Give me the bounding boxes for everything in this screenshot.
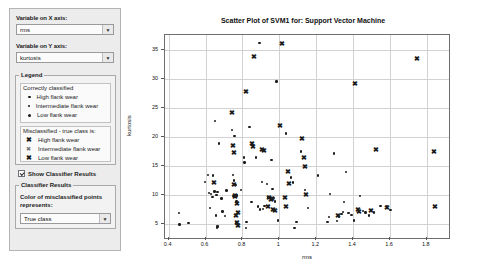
y-gridline bbox=[165, 50, 449, 51]
x-axis-label: rms bbox=[164, 254, 450, 260]
x-marker-icon: ✖ bbox=[26, 136, 32, 144]
scatter-point-misclassified: ✖ bbox=[384, 203, 390, 210]
x-axis-variable-select[interactable]: rms ▼ bbox=[16, 24, 114, 35]
x-tick-label: 1 bbox=[277, 241, 280, 247]
y-axis-label: kurtosis bbox=[126, 115, 132, 136]
scatter-point-correct bbox=[258, 42, 260, 44]
scatter-point-misclassified: ✖ bbox=[250, 142, 256, 149]
scatter-point-correct bbox=[295, 221, 297, 223]
scatter-point-misclassified: ✖ bbox=[335, 211, 341, 218]
scatter-point-misclassified: ✖ bbox=[251, 52, 257, 59]
misclassified-color-select[interactable]: True class ▼ bbox=[20, 213, 111, 224]
scatter-point-correct bbox=[243, 156, 245, 158]
scatter-point-correct bbox=[245, 227, 247, 229]
scatter-point-correct bbox=[364, 211, 366, 213]
x-tick-mark bbox=[278, 237, 279, 240]
scatter-point-misclassified: ✖ bbox=[431, 148, 437, 155]
scatter-point-correct bbox=[261, 181, 263, 183]
chevron-down-icon: ▼ bbox=[102, 53, 113, 62]
y-tick-label: 15 bbox=[136, 162, 158, 168]
scatter-point-correct bbox=[243, 161, 245, 163]
legend-label: Intermediate flank wear bbox=[38, 146, 100, 152]
scatter-point-correct bbox=[326, 221, 328, 223]
scatter-point-correct bbox=[209, 207, 211, 209]
scatter-point-misclassified: ✖ bbox=[272, 206, 278, 213]
x-tick-label: 1.6 bbox=[385, 241, 393, 247]
scatter-point-misclassified: ✖ bbox=[352, 80, 358, 87]
scatter-point-misclassified: ✖ bbox=[286, 179, 292, 186]
scatter-point-misclassified: ✖ bbox=[230, 141, 236, 148]
y-tick-mark bbox=[161, 223, 164, 224]
x-tick-label: 1.8 bbox=[422, 241, 430, 247]
scatter-point-correct bbox=[231, 129, 233, 131]
scatter-point-correct bbox=[207, 174, 209, 176]
scatter-point-misclassified: ✖ bbox=[229, 109, 235, 116]
scatter-point-correct bbox=[213, 190, 215, 192]
x-tick-label: 1.2 bbox=[311, 241, 319, 247]
y-axis-variable-select[interactable]: kurtosis ▼ bbox=[16, 52, 114, 63]
scatter-point-correct bbox=[277, 219, 279, 221]
scatter-point-misclassified: ✖ bbox=[299, 135, 305, 142]
y-axis-variable-label: Variable on Y axis: bbox=[16, 43, 67, 49]
scatter-point-correct bbox=[333, 152, 335, 154]
x-tick-label: 0.8 bbox=[238, 241, 246, 247]
classifier-results-description-line2: represents: bbox=[20, 201, 53, 209]
y-tick-label: 35 bbox=[136, 46, 158, 52]
scatter-point-correct bbox=[178, 212, 180, 214]
scatter-point-misclassified: ✖ bbox=[302, 163, 308, 170]
scatter-point-misclassified: ✖ bbox=[234, 200, 240, 207]
scatter-point-correct bbox=[347, 212, 349, 214]
show-classifier-results-checkbox[interactable]: Show Classifier Results bbox=[18, 170, 96, 177]
scatter-point-correct bbox=[317, 174, 319, 176]
scatter-point-misclassified: ✖ bbox=[261, 147, 267, 154]
x-tick-label: 0.4 bbox=[164, 241, 172, 247]
scatter-point-correct bbox=[233, 135, 235, 137]
scatter-point-correct bbox=[379, 205, 381, 207]
classifier-results-title: Classifier Results bbox=[19, 182, 73, 188]
control-panel: Variable on X axis: rms ▼ Variable on Y … bbox=[9, 8, 121, 251]
scatter-point-correct bbox=[178, 223, 180, 225]
scatter-point-misclassified: ✖ bbox=[432, 202, 438, 209]
legend-misclassified-heading: Misclassified - true class is: bbox=[23, 128, 96, 134]
scatter-point-misclassified: ✖ bbox=[373, 145, 379, 152]
x-tick-mark bbox=[352, 237, 353, 240]
legend-item-correct-low: Low flank wear bbox=[28, 112, 77, 118]
y-tick-label: 30 bbox=[136, 75, 158, 81]
legend-group-title: Legend bbox=[19, 72, 44, 78]
scatter-point-correct bbox=[307, 207, 309, 209]
misclassified-color-value: True class bbox=[21, 216, 99, 222]
scatter-point-correct bbox=[293, 227, 295, 229]
scatter-point-correct bbox=[232, 174, 234, 176]
dot-marker-icon bbox=[28, 96, 31, 99]
scatter-point-correct bbox=[271, 188, 273, 190]
scatter-point-misclassified: ✖ bbox=[356, 207, 362, 214]
checkbox-checked-icon bbox=[18, 170, 25, 177]
scatter-point-misclassified: ✖ bbox=[414, 54, 420, 61]
scatter-point-correct bbox=[225, 189, 227, 191]
scatter-point-correct bbox=[353, 219, 355, 221]
scatter-point-correct bbox=[248, 126, 250, 128]
chevron-down-icon: ▼ bbox=[102, 25, 113, 34]
scatter-point-correct bbox=[240, 189, 242, 191]
scatter-point-correct bbox=[212, 174, 214, 176]
scatter-point-correct bbox=[220, 197, 222, 199]
scatter-point-misclassified: ✖ bbox=[231, 181, 237, 188]
scatter-point-correct bbox=[343, 201, 345, 203]
y-axis-variable-value: kurtosis bbox=[17, 55, 102, 61]
y-gridline bbox=[165, 79, 449, 80]
y-tick-mark bbox=[161, 78, 164, 79]
scatter-point-correct bbox=[270, 159, 272, 161]
legend-correct-heading: Correctly classified bbox=[23, 85, 73, 91]
scatter-point-misclassified: ✖ bbox=[301, 153, 307, 160]
scatter-point-misclassified: ✖ bbox=[277, 122, 283, 129]
y-tick-mark bbox=[161, 194, 164, 195]
x-axis-variable-label: Variable on X axis: bbox=[16, 15, 67, 21]
legend-label: Low flank wear bbox=[38, 155, 78, 161]
scatter-point-correct bbox=[350, 214, 352, 216]
scatter-point-correct bbox=[217, 225, 219, 227]
scatter-point-correct bbox=[211, 196, 213, 198]
legend-item-misclassified-high: ✖ High flank wear bbox=[26, 136, 79, 144]
x-tick-mark bbox=[241, 237, 242, 240]
classification-scatter-app: Variable on X axis: rms ▼ Variable on Y … bbox=[0, 0, 482, 280]
y-tick-label: 20 bbox=[136, 133, 158, 139]
